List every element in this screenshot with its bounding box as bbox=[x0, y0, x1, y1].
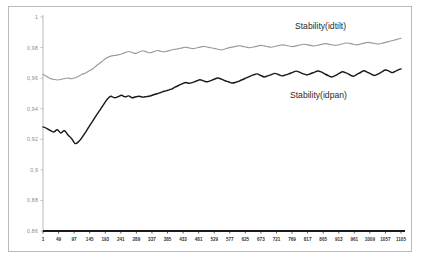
y-tick-label: 0,98 bbox=[27, 45, 38, 51]
series-line-stabilityidpan bbox=[43, 69, 401, 144]
x-tick-label: 913 bbox=[335, 237, 343, 242]
series-label-idpan: Stability(idpan) bbox=[290, 90, 347, 100]
series-label-idtilt: Stability(idtilt) bbox=[295, 21, 346, 31]
x-tick-label: 817 bbox=[304, 237, 312, 242]
x-tick-label: 1057 bbox=[380, 237, 391, 242]
y-tick-label: 0,88 bbox=[27, 197, 38, 203]
y-tick-label: 1 bbox=[35, 14, 38, 20]
x-tick-label: 1009 bbox=[365, 237, 376, 242]
y-tick-label: 0,86 bbox=[27, 228, 38, 234]
y-tick-label: 0,96 bbox=[27, 75, 38, 81]
x-tick-label: 721 bbox=[273, 237, 281, 242]
y-tick-label: 0,92 bbox=[27, 136, 38, 142]
x-tick-label: 481 bbox=[195, 237, 203, 242]
x-tick-label: 625 bbox=[242, 237, 250, 242]
x-tick-label: 577 bbox=[226, 237, 234, 242]
x-tick-label: 865 bbox=[319, 237, 327, 242]
x-tick-label: 961 bbox=[350, 237, 358, 242]
x-tick-label: 193 bbox=[101, 237, 109, 242]
x-tick-label: 1 bbox=[42, 237, 45, 242]
x-tick-label: 385 bbox=[164, 237, 172, 242]
line-chart: 0,860,880,90,920,940,960,981149971451932… bbox=[9, 7, 413, 253]
x-tick-label: 1105 bbox=[396, 237, 406, 242]
x-tick-label: 673 bbox=[257, 237, 265, 242]
chart-figure: 0,860,880,90,920,940,960,981149971451932… bbox=[8, 6, 412, 252]
y-tick-label: 0,9 bbox=[30, 167, 38, 173]
x-tick-label: 241 bbox=[117, 237, 125, 242]
x-tick-label: 145 bbox=[86, 237, 94, 242]
x-tick-label: 49 bbox=[56, 237, 62, 242]
x-tick-label: 433 bbox=[179, 237, 187, 242]
x-tick-label: 529 bbox=[210, 237, 218, 242]
chart-plot-area: 0,860,880,90,920,940,960,981149971451932… bbox=[9, 7, 413, 253]
x-tick-label: 97 bbox=[72, 237, 78, 242]
x-tick-label: 337 bbox=[148, 237, 156, 242]
x-tick-label: 769 bbox=[288, 237, 296, 242]
x-tick-label: 289 bbox=[133, 237, 141, 242]
y-tick-label: 0,94 bbox=[27, 106, 38, 112]
